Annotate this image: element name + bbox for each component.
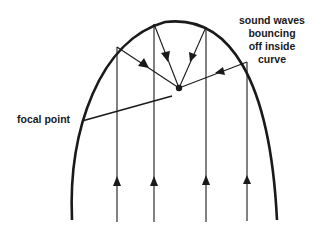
focal-point-label: focal point xyxy=(17,113,70,126)
sound-waves-label-line-1: sound waves xyxy=(232,14,312,27)
focal-point-dot xyxy=(176,85,182,91)
sound-waves-label-line-2: bouncing xyxy=(232,27,312,40)
sound-waves-label-line-4: curve xyxy=(232,53,312,66)
focal-point-leader-line xyxy=(82,96,172,121)
arrow-up-icon xyxy=(150,176,158,186)
arrow-up-icon xyxy=(243,175,251,184)
sound-waves-label: sound waves bouncing off inside curve xyxy=(232,14,312,66)
arrow-icon xyxy=(138,58,149,68)
upward-arrow-icons xyxy=(113,175,251,186)
reflected-arrow-icons xyxy=(138,51,225,75)
arrow-up-icon xyxy=(202,175,210,185)
arrow-icon xyxy=(189,52,197,62)
incoming-rays xyxy=(117,24,247,222)
reflected-rays xyxy=(117,24,247,88)
arrow-up-icon xyxy=(113,176,121,186)
sound-waves-label-line-3: off inside xyxy=(232,40,312,53)
